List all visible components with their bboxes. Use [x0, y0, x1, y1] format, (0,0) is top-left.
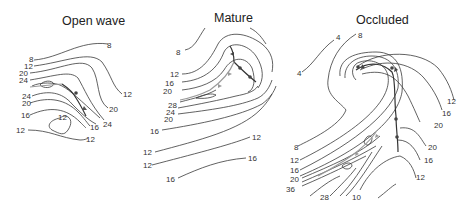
contour-label: 12: [16, 126, 25, 135]
contour-label: 12: [416, 173, 425, 182]
contour-label: 16: [290, 166, 299, 175]
cold-front: [396, 116, 398, 152]
warm-front-symbol: [248, 75, 252, 79]
contour-label: 16: [150, 127, 159, 136]
contour-label: 36: [286, 185, 295, 194]
cyclone-lifecycle-diagram: Open wave 8 8 12 20 24 24 20 16 12 12 12…: [0, 0, 472, 209]
isotherm-16: [182, 45, 262, 88]
isotherm-12-upper: [34, 57, 122, 94]
panel-open-wave: Open wave 8 8 12 20 24 24 20 16 12 12 12…: [16, 14, 132, 144]
contour-label: 16: [21, 111, 30, 120]
front-symbol: [394, 117, 398, 121]
contour-label: 20: [290, 175, 299, 184]
contour-label: 12: [143, 161, 152, 170]
cold-front-symbol: [82, 106, 87, 110]
warm-front: [234, 62, 256, 82]
cold-front-symbol: [228, 72, 232, 76]
contour-label: 12: [58, 113, 67, 122]
isotherm-8: [34, 43, 108, 60]
contour-label: 28: [320, 193, 329, 202]
isotherm-8-outer: [298, 34, 356, 146]
contour-label: 12: [290, 156, 299, 165]
contour-label: 12: [123, 90, 132, 99]
occluded-front: [356, 64, 396, 116]
contour-label: 24: [19, 76, 28, 85]
isotherm-12-lower: [28, 130, 88, 140]
isotherm-12-lower: [360, 156, 416, 190]
contour-label: 20: [428, 143, 437, 152]
isotherm-16-arc: [360, 63, 442, 110]
isotherm-bottom-curl: [378, 184, 396, 198]
contour-label: 8: [294, 143, 299, 152]
panel-title-occluded: Occluded: [356, 13, 409, 27]
contour-label: 4: [297, 69, 302, 78]
occluded-front-symbol: [356, 65, 360, 69]
contour-label: 8: [107, 41, 112, 50]
contour-label: 12: [252, 133, 261, 142]
isotherm-12-bottom: [152, 137, 250, 165]
isotherm-dense-7: [346, 146, 382, 196]
contour-label: 20: [434, 121, 443, 130]
contour-label: 16: [248, 154, 257, 163]
contour-label: 8: [358, 31, 363, 40]
contour-label: 16: [424, 156, 433, 165]
contour-label: 24: [103, 120, 112, 129]
occluded-front-symbol: [390, 66, 394, 70]
panel-title-mature: Mature: [214, 11, 253, 25]
contour-label: 20: [109, 105, 118, 114]
warm-front-symbol: [238, 66, 242, 70]
isotherm-20-lower: [400, 128, 426, 146]
panel-title-open-wave: Open wave: [62, 14, 125, 28]
isotherm-8: [185, 28, 205, 50]
contour-label: 12: [143, 148, 152, 157]
isotherm-4: [302, 40, 334, 72]
contour-label: 10: [352, 193, 361, 202]
contour-label: 12: [170, 70, 179, 79]
contour-label: 20: [164, 115, 173, 124]
contour-label: 12: [447, 97, 456, 106]
panel-mature: Mature 8 12 16 20 28 24 20 16 12 12 12: [143, 11, 276, 184]
contour-label: 8: [176, 48, 181, 57]
contour-label: 16: [90, 123, 99, 132]
contour-label: 16: [442, 109, 451, 118]
contour-label: 4: [336, 33, 341, 42]
contour-label: 12: [86, 135, 95, 144]
contour-label: 16: [166, 175, 175, 184]
contour-label: 20: [163, 87, 172, 96]
contour-label: 20: [22, 99, 31, 108]
isotherm-28: [180, 90, 216, 102]
isotherm-20-spiral: [300, 52, 402, 176]
front-symbol: [395, 135, 399, 139]
isotherm-16-bottom: [178, 158, 246, 178]
warm-front-symbol: [74, 91, 78, 95]
occluded-front-symbol: [230, 52, 234, 56]
panel-occluded: Occluded: [286, 13, 456, 202]
isotherm-12: [182, 34, 273, 74]
cold-front-symbol: [218, 84, 222, 88]
isotherm-20-arc: [362, 72, 420, 122]
